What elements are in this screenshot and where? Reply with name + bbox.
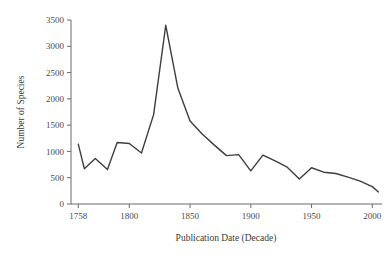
y-tick-label: 1500: [46, 120, 65, 130]
x-tick-label: 1850: [181, 211, 200, 221]
x-tick-label: 1900: [242, 211, 261, 221]
species-by-publication-decade-chart: 0500100015002000250030003500 17581800185…: [0, 0, 390, 254]
y-tick-label: 1000: [46, 147, 65, 157]
x-tick-label: 2000: [363, 211, 382, 221]
y-tick-label: 2500: [46, 68, 65, 78]
y-axis-title: Number of Species: [16, 75, 26, 148]
x-axis-title: Publication Date (Decade): [176, 233, 277, 244]
x-tick-label: 1950: [303, 211, 322, 221]
y-tick-label: 3500: [46, 15, 65, 25]
y-tick-label: 0: [60, 199, 65, 209]
y-tick-label: 2000: [46, 94, 65, 104]
y-tick-label: 3000: [46, 41, 65, 51]
y-tick-label: 500: [51, 173, 65, 183]
x-tick-label: 1758: [69, 211, 88, 221]
x-tick-label: 1800: [120, 211, 139, 221]
